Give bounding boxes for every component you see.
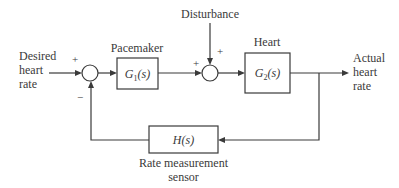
feedback-line-left	[91, 85, 149, 140]
svg-text:heart: heart	[19, 63, 44, 77]
sensor-caption-line-1: Rate measurement	[139, 156, 229, 170]
svg-text:Desired: Desired	[19, 49, 56, 63]
svg-text:rate: rate	[19, 77, 37, 91]
plus-sign: +	[193, 57, 199, 69]
g2-transfer-function: G2(s)	[255, 66, 280, 82]
plus-sign: +	[217, 45, 223, 57]
plus-sign: +	[72, 53, 78, 65]
arrowhead-icon	[75, 70, 82, 76]
arrowhead-icon	[342, 70, 349, 76]
block-diagram: Desired heart rate + − Pacemaker G1(s) +…	[0, 0, 399, 188]
g1-transfer-function: G1(s)	[125, 67, 150, 83]
arrowhead-icon	[110, 70, 117, 76]
svg-text:Actual: Actual	[353, 51, 386, 65]
h-transfer-function: H(s)	[172, 133, 194, 147]
minus-sign: −	[77, 91, 83, 103]
arrowhead-icon	[195, 70, 202, 76]
input-label: Desired heart rate	[19, 49, 56, 91]
arrowhead-icon	[88, 81, 94, 88]
disturbance-label: Disturbance	[181, 7, 239, 21]
summing-junction-1	[82, 65, 98, 81]
heart-label: Heart	[254, 35, 281, 49]
output-label: Actual heart rate	[353, 51, 386, 93]
summing-junction-2	[202, 65, 218, 81]
arrowhead-icon	[218, 137, 225, 143]
sensor-caption-line-2: sensor	[168, 170, 199, 184]
arrowhead-icon	[207, 58, 213, 65]
svg-text:heart: heart	[353, 65, 378, 79]
svg-text:rate: rate	[353, 79, 371, 93]
arrowhead-icon	[238, 70, 245, 76]
pacemaker-label: Pacemaker	[111, 41, 164, 55]
